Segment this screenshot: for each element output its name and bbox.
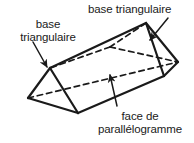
label-base-triangulaire-left: base triangulaire xyxy=(12,18,84,44)
label-base-triangulaire-left-line2: triangulaire xyxy=(12,31,84,44)
leader-line-left xyxy=(33,42,47,67)
label-face-parallelogramme-line1: face de xyxy=(88,110,192,123)
label-face-parallelogramme-line2: parallélogramme xyxy=(88,123,192,136)
label-base-triangulaire-left-line1: base xyxy=(12,18,84,31)
figure-container: base triangulaire base triangulaire face… xyxy=(0,0,194,143)
label-base-triangulaire-right: base triangulaire xyxy=(88,3,171,16)
label-face-parallelogramme: face de parallélogramme xyxy=(88,110,192,136)
leader-line-right xyxy=(150,18,168,40)
